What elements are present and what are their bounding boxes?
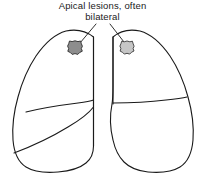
right-lung-horizontal-fissure — [113, 97, 187, 103]
apical-lesions-lung-diagram: Apical lesions, often bilateral — [0, 0, 205, 188]
leader-line-right-icon — [110, 24, 124, 42]
right-apical-lesion — [120, 41, 134, 54]
lung-illustration — [0, 0, 205, 188]
left-lung-upper-fissure — [26, 100, 94, 112]
left-lung-lower-fissure — [14, 107, 94, 153]
left-apical-lesion — [68, 41, 83, 55]
